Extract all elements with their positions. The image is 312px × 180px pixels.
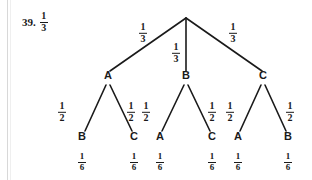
fraction-denominator: 2 [59,113,66,123]
fraction: 13 [139,22,147,44]
fraction: 12 [286,101,294,123]
fraction-numerator: 1 [59,101,66,111]
fraction-denominator: 6 [285,163,292,172]
edge-probability-label: 13 [172,36,180,64]
fraction: 12 [127,101,135,123]
edge-probability-label: 12 [286,95,294,123]
fraction-denominator: 6 [131,163,138,172]
leaf-probability: 16 [156,145,164,172]
edge-probability-label: 12 [127,95,135,123]
fraction: 12 [142,101,150,123]
fraction-denominator: 6 [79,163,86,172]
tree-edge [162,85,184,131]
tree-node-l2-b: B [78,131,86,142]
tree-node-l2-b2: B [284,131,292,142]
fraction: 16 [78,152,86,172]
fraction-denominator: 6 [157,163,164,172]
fraction-numerator: 1 [131,152,138,161]
fraction-denominator: 6 [235,163,242,172]
fraction-denominator: 2 [227,113,234,123]
fraction-numerator: 1 [209,152,216,161]
tree-edge [85,85,106,131]
tree-node-l1-c: C [259,70,267,81]
fraction-numerator: 1 [235,152,242,161]
fraction: 16 [284,152,292,172]
fraction-denominator: 2 [287,113,294,123]
edge-probability-label: 13 [139,16,147,44]
fraction: 16 [156,152,164,172]
leaf-probability: 16 [208,145,216,172]
leaf-probability: 16 [78,145,86,172]
leaf-probability: 16 [130,145,138,172]
fraction-numerator: 1 [209,101,216,111]
fraction: 13 [229,22,237,44]
edge-probability-label: 12 [142,95,150,123]
fraction-denominator: 2 [143,113,150,123]
edge-probability-label: 12 [208,95,216,123]
fraction: 12 [58,101,66,123]
fraction-numerator: 1 [157,152,164,161]
fraction-denominator: 3 [173,54,180,64]
fraction-numerator: 1 [128,101,135,111]
edge-probability-label: 12 [226,95,234,123]
tree-node-l1-b: B [182,70,190,81]
worksheet-page: 39. 1 3 A13B13C13B1216C1216A1216C1216A12… [0,0,312,180]
tree-node-l2-c2: C [208,131,216,142]
fraction-numerator: 1 [227,101,234,111]
fraction: 16 [130,152,138,172]
fraction-denominator: 3 [140,34,147,44]
leaf-probability: 16 [234,145,242,172]
edge-probability-label: 13 [229,16,237,44]
tree-node-l2-a2: A [234,131,242,142]
fraction-numerator: 1 [287,101,294,111]
fraction: 12 [208,101,216,123]
fraction-numerator: 1 [173,42,180,52]
fraction-numerator: 1 [140,22,147,32]
fraction: 13 [172,42,180,64]
tree-edge [240,85,261,131]
fraction-numerator: 1 [230,22,237,32]
fraction-denominator: 6 [209,163,216,172]
fraction-denominator: 2 [209,113,216,123]
tree-node-l2-c: C [130,131,138,142]
leaf-probability: 16 [284,145,292,172]
tree-node-l2-a: A [156,131,164,142]
tree-edge [188,85,210,131]
fraction-denominator: 3 [230,34,237,44]
fraction-numerator: 1 [143,101,150,111]
fraction: 16 [234,152,242,172]
fraction: 16 [208,152,216,172]
tree-node-l1-a: A [104,70,112,81]
fraction-numerator: 1 [285,152,292,161]
edge-probability-label: 12 [58,95,66,123]
fraction-denominator: 2 [128,113,135,123]
tree-edge [265,85,286,131]
tree-edge [186,18,262,71]
fraction: 12 [226,101,234,123]
fraction-numerator: 1 [79,152,86,161]
